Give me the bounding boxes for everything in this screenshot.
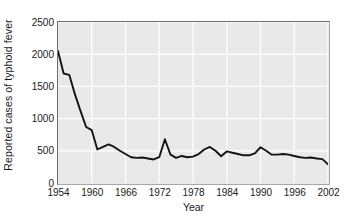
x-tick-label: 1984	[216, 187, 238, 198]
y-axis-label: Reported cases of typhoid fever	[0, 0, 16, 190]
x-axis-label: Year	[57, 201, 330, 213]
x-tick-label: 1960	[81, 187, 103, 198]
x-axis-tick-labels: 195419601966197219781984199019962002	[0, 187, 359, 201]
plot-area	[57, 21, 330, 185]
x-tick-label: 1996	[284, 187, 306, 198]
chart-canvas	[58, 22, 328, 183]
x-tick-label: 1966	[115, 187, 137, 198]
y-tick-label: 2500	[20, 18, 54, 28]
y-axis-label-text: Reported cases of typhoid fever	[2, 19, 14, 170]
y-tick-label: 500	[20, 146, 54, 156]
x-tick-label: 2002	[317, 187, 339, 198]
gridlines	[58, 22, 328, 183]
y-tick-label: 1000	[20, 114, 54, 124]
x-tick-label: 1978	[182, 187, 204, 198]
y-tick-label: 1500	[20, 82, 54, 92]
x-tick-label: 1990	[250, 187, 272, 198]
y-tick-label: 2000	[20, 50, 54, 60]
chart-figure: Reported cases of typhoid fever 05001000…	[0, 0, 359, 221]
x-tick-label: 1972	[149, 187, 171, 198]
x-tick-label: 1954	[47, 187, 69, 198]
